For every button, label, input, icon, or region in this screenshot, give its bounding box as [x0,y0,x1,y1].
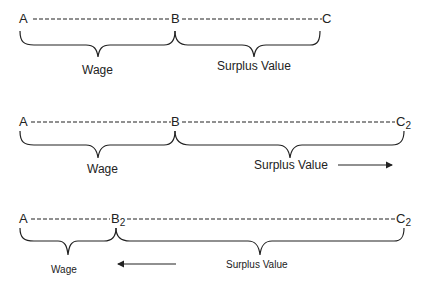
label-wage-row3: Wage [51,264,77,276]
point-b-row1: B [171,12,180,25]
point-a-row1: A [19,12,28,25]
brace-wage-row1 [20,31,175,57]
point-c2-row2: C2 [396,115,411,128]
point-a-row2: A [19,115,28,128]
label-wage-row2: Wage [87,163,118,175]
point-a-row3: A [19,212,28,225]
brace-wage-row2 [20,131,175,158]
label-surplus-value-row2: Surplus Value [254,159,328,171]
diagram-lines [0,0,424,289]
label-surplus-value-row1: Surplus Value [217,60,291,72]
point-c-row1: C [322,12,331,25]
point-b-row2: B [171,115,180,128]
brace-wage-row3 [20,228,116,255]
brace-surplus-row3 [116,228,404,255]
label-surplus-value-row3: Surplus Value [226,259,288,271]
brace-surplus-row1 [175,31,320,57]
label-wage-row1: Wage [82,64,113,76]
point-c2-row3: C2 [396,212,411,225]
brace-surplus-row2 [175,131,404,158]
point-b2-row3: B2 [111,212,125,225]
